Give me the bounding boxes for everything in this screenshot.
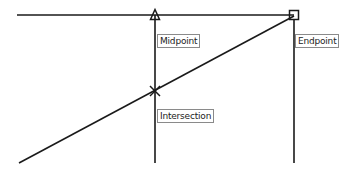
cad-drawing <box>0 0 346 171</box>
intersection-tooltip: Intersection <box>157 109 214 123</box>
drawing-canvas[interactable]: Midpoint Endpoint Intersection <box>0 0 346 171</box>
midpoint-tooltip: Midpoint <box>157 34 200 48</box>
endpoint-tooltip: Endpoint <box>295 34 339 48</box>
